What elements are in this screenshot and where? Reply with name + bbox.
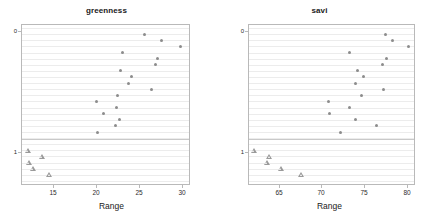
gridline [249,28,414,29]
gridline [249,120,414,121]
data-point-circle-0 [114,124,117,127]
gridline [249,83,414,84]
x-tick-mark-right-1 [321,185,322,188]
group-separator-line [22,139,189,140]
panel-title-greenness: greenness [0,6,213,15]
gridline [249,126,414,127]
gridline [22,77,189,78]
gridline [22,114,189,115]
gridline [22,46,189,47]
data-point-circle-0 [150,88,153,91]
gridline [249,95,414,96]
data-point-triangle-1 [266,154,272,159]
gridline [249,53,414,54]
panel-title-savi: savi [213,6,426,15]
plot-area-savi [248,24,415,185]
y-tick-label-0-left: 0 [4,28,17,34]
data-point-triangle-1 [46,172,52,177]
gridline [22,101,189,102]
data-point-circle-0 [130,75,133,78]
x-tick-mark-right-0 [279,185,280,188]
data-point-circle-0 [384,33,387,36]
x-tick-mark-left-0 [53,185,54,188]
gridline [22,71,189,72]
gridline [22,95,189,96]
data-point-circle-0 [348,106,351,109]
data-point-circle-0 [143,33,146,36]
gridline [249,175,414,176]
gridline [22,108,189,109]
data-point-triangle-1 [251,148,257,153]
gridline [249,101,414,102]
data-point-circle-0 [328,112,331,115]
gridline [22,59,189,60]
x-axis-title-greenness: Range [0,201,213,211]
data-point-triangle-1 [278,166,284,171]
gridline [249,156,414,157]
data-point-circle-0 [160,39,163,42]
data-point-circle-0 [375,124,378,127]
data-point-circle-0 [179,45,182,48]
data-point-circle-0 [96,131,99,134]
data-point-circle-0 [354,118,357,121]
x-tick-label-right-0: 65 [269,189,289,196]
gridline [249,144,414,145]
data-point-circle-0 [154,63,157,66]
gridline [22,150,189,151]
gridline [22,144,189,145]
gridline [22,83,189,84]
data-point-circle-0 [327,100,330,103]
data-point-circle-0 [381,63,384,66]
gridline [249,77,414,78]
gridline [22,181,189,182]
data-point-circle-0 [119,69,122,72]
x-tick-label-left-2: 25 [129,189,149,196]
data-point-triangle-1 [25,148,31,153]
x-tick-mark-left-2 [139,185,140,188]
x-tick-mark-right-2 [364,185,365,188]
gridline [22,53,189,54]
x-tick-label-left-3: 30 [172,189,192,196]
panel-savi: savi 0 1 65 70 75 80 Range [213,0,426,223]
data-point-circle-0 [382,88,385,91]
dotplot-figure: greenness 0 1 15 20 25 30 Range savi 0 1… [0,0,426,223]
gridline [22,28,189,29]
gridline [249,150,414,151]
gridline [249,71,414,72]
data-point-circle-0 [362,75,365,78]
data-point-circle-0 [156,57,159,60]
y-tick-label-0-right: 0 [231,28,244,34]
gridline [249,181,414,182]
gridline [249,65,414,66]
gridline [249,132,414,133]
x-tick-label-right-3: 80 [397,189,417,196]
data-point-circle-0 [115,106,118,109]
x-tick-mark-left-1 [96,185,97,188]
gridline [249,114,414,115]
data-point-circle-0 [102,112,105,115]
data-point-circle-0 [348,51,351,54]
data-point-circle-0 [121,51,124,54]
gridline [22,34,189,35]
gridline [249,46,414,47]
data-point-circle-0 [391,39,394,42]
x-tick-label-left-1: 20 [86,189,106,196]
x-tick-label-right-1: 70 [311,189,331,196]
data-point-circle-0 [116,94,119,97]
gridline [22,65,189,66]
data-point-circle-0 [360,94,363,97]
gridline [22,169,189,170]
data-point-circle-0 [385,57,388,60]
data-point-triangle-1 [298,172,304,177]
x-tick-label-right-2: 75 [354,189,374,196]
data-point-triangle-1 [39,154,45,159]
data-point-circle-0 [127,82,130,85]
gridline [22,89,189,90]
gridline [249,89,414,90]
gridline [22,163,189,164]
gridline [249,163,414,164]
gridline [249,108,414,109]
group-separator-line [249,139,414,140]
data-point-triangle-1 [264,160,270,165]
gridline [249,169,414,170]
